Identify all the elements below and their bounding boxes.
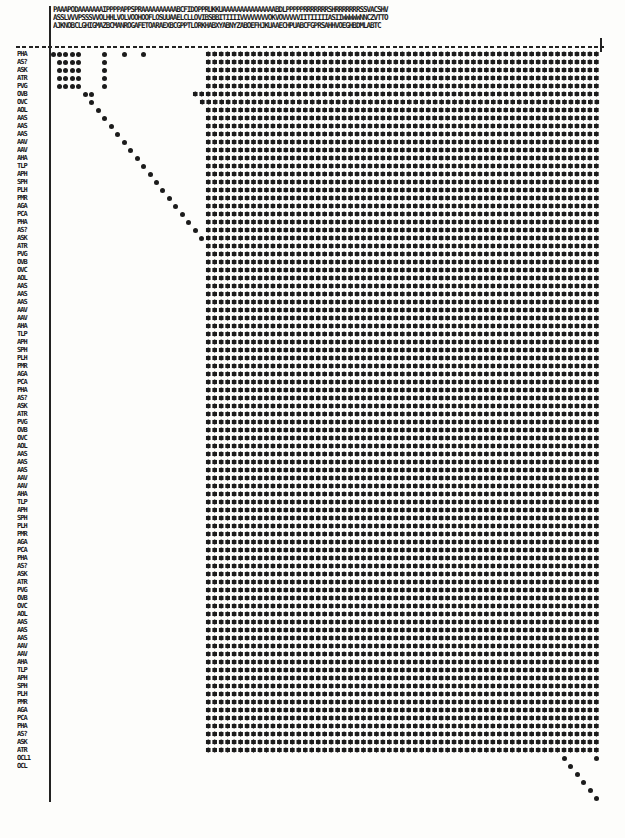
row-label: AAS [17, 626, 47, 634]
matrix-dot [109, 124, 114, 129]
row-label: AHA [17, 490, 47, 498]
row-label: PCA [17, 546, 47, 554]
matrix-filled-row [205, 738, 600, 746]
row-label: AAV [17, 482, 47, 490]
row-label: AAS [17, 466, 47, 474]
matrix-filled-row [205, 650, 600, 658]
matrix-dot [70, 60, 75, 65]
row-label: PMR [17, 362, 47, 370]
row-label: ASK [17, 402, 47, 410]
matrix-filled-row [205, 674, 600, 682]
matrix-filled-row [205, 618, 600, 626]
matrix-dot [57, 60, 62, 65]
row-label: SPH [17, 514, 47, 522]
row-label: OVC [17, 266, 47, 274]
row-label: OCL1 [17, 754, 47, 762]
matrix-filled-row [205, 498, 600, 506]
matrix-dot [199, 236, 204, 241]
matrix-dot [89, 100, 94, 105]
matrix-filled-row [205, 586, 600, 594]
matrix-filled-row [205, 514, 600, 522]
matrix-filled-row [205, 634, 600, 642]
matrix-filled-row [205, 698, 600, 706]
matrix-filled-row [205, 706, 600, 714]
header-tick-mark [600, 38, 602, 52]
matrix-dot [70, 84, 75, 89]
header-dashed-rule [16, 46, 604, 48]
row-label: SPH [17, 682, 47, 690]
matrix-filled-row [205, 546, 600, 554]
matrix-dot [141, 164, 146, 169]
row-label: OVC [17, 98, 47, 106]
matrix-dot [186, 220, 191, 225]
matrix-dot [51, 52, 56, 57]
matrix-dot [70, 52, 75, 57]
matrix-dot [76, 68, 81, 73]
row-label: AS? [17, 58, 47, 66]
row-label: OVC [17, 602, 47, 610]
row-label: AAS [17, 114, 47, 122]
matrix-filled-row [205, 186, 600, 194]
row-label: AGA [17, 202, 47, 210]
matrix-dot [102, 76, 107, 81]
matrix-filled-row [205, 626, 600, 634]
matrix-filled-row [205, 338, 600, 346]
matrix-filled-row [205, 418, 600, 426]
row-label: APH [17, 674, 47, 682]
row-label: AS? [17, 394, 47, 402]
matrix-filled-row [205, 266, 600, 274]
matrix-filled-row [205, 610, 600, 618]
matrix-filled-row [205, 74, 600, 82]
matrix-dot [594, 796, 599, 801]
row-label: AS? [17, 226, 47, 234]
matrix-filled-row [205, 314, 600, 322]
matrix-filled-row [205, 66, 600, 74]
matrix-filled-row [205, 194, 600, 202]
matrix-filled-row [205, 330, 600, 338]
matrix-dot [83, 92, 88, 97]
matrix-filled-row [205, 258, 600, 266]
matrix-dot [122, 140, 127, 145]
row-label: PMR [17, 194, 47, 202]
row-label: AGA [17, 370, 47, 378]
matrix-dot [122, 52, 127, 57]
row-label: AAV [17, 138, 47, 146]
matrix-dot [135, 156, 140, 161]
row-label: AGA [17, 706, 47, 714]
matrix-filled-row [205, 298, 600, 306]
matrix-filled-row [205, 554, 600, 562]
matrix-dot [588, 788, 593, 793]
vertical-axis-line [49, 6, 51, 802]
matrix-dot [63, 84, 68, 89]
matrix-filled-row [205, 402, 600, 410]
matrix-filled-row [205, 530, 600, 538]
matrix-dot [180, 212, 185, 217]
row-label: SPH [17, 346, 47, 354]
matrix-dot [102, 52, 107, 57]
row-label: PLH [17, 354, 47, 362]
row-labels-column: PHAAS?ASKATRPVGOVBOVCAOLAASAASAASAAVAAVA… [17, 50, 47, 770]
matrix-dot [76, 52, 81, 57]
row-label: OVB [17, 258, 47, 266]
matrix-filled-row [205, 82, 600, 90]
row-label: PHA [17, 50, 47, 58]
row-label: AAS [17, 298, 47, 306]
matrix-dot [63, 76, 68, 81]
row-label: AAV [17, 146, 47, 154]
matrix-dot [154, 180, 159, 185]
matrix-filled-row [205, 570, 600, 578]
row-label: AAV [17, 650, 47, 658]
row-label: AHA [17, 658, 47, 666]
matrix-dot [57, 52, 62, 57]
matrix-dot [96, 108, 101, 113]
row-label: ATR [17, 74, 47, 82]
matrix-filled-row [205, 234, 600, 242]
row-label: PVG [17, 82, 47, 90]
matrix-dot [173, 204, 178, 209]
matrix-dot [594, 756, 599, 761]
row-label: AAS [17, 450, 47, 458]
matrix-dot [76, 60, 81, 65]
row-label: AAS [17, 634, 47, 642]
matrix-filled-row [205, 346, 600, 354]
matrix-filled-row [205, 490, 600, 498]
